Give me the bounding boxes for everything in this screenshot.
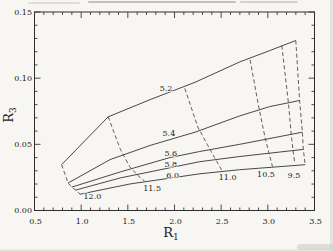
chart-canvas: 0.51.01.52.02.53.03.50.000.050.100.15R1R… (0, 0, 333, 251)
curve-right-boundary-dashed (296, 41, 305, 165)
x-tick-label: 1.5 (122, 217, 135, 226)
x-tick-label: 3.5 (309, 217, 322, 226)
curve-label-11.0: 11.0 (219, 173, 237, 182)
x-tick-label: 2.5 (216, 217, 229, 226)
curve-label-6.0: 6.0 (166, 171, 179, 180)
curve-label-9.5: 9.5 (288, 171, 301, 180)
curve-label-11.5: 11.5 (143, 184, 161, 193)
curve-label-5.2: 5.2 (160, 84, 173, 93)
x-tick-label: 0.5 (29, 217, 42, 226)
curve-label-5.4: 5.4 (163, 129, 176, 138)
y-tick-label: 0.05 (14, 140, 32, 149)
curve-label-12.0: 12.0 (83, 192, 101, 201)
curve-10.5-dashed (250, 60, 272, 167)
curve-label-10.5: 10.5 (257, 170, 275, 179)
scientific-figure: 0.51.01.52.02.53.03.50.000.050.100.15R1R… (0, 0, 333, 251)
plot-frame (35, 12, 315, 211)
x-tick-label: 1.0 (76, 217, 89, 226)
y-tick-label: 0.10 (14, 74, 32, 83)
x-axis-label: R1 (163, 225, 179, 242)
curve-9.5-dashed (282, 46, 295, 164)
y-tick-label: 0.00 (14, 206, 32, 215)
y-axis-label: R3 (1, 107, 18, 123)
y-tick-label: 0.15 (14, 8, 32, 17)
curve-5.2-solid (62, 41, 296, 165)
curve-label-5.8: 5.8 (164, 160, 177, 169)
curve-label-5.6: 5.6 (164, 149, 177, 158)
x-tick-label: 3.0 (262, 217, 275, 226)
